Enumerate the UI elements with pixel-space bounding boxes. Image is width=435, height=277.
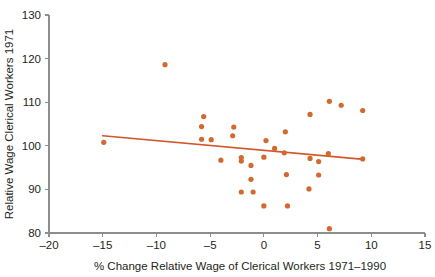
scatter-chart-figure: –20–15–10–5051015 8090100110120130 % Cha… xyxy=(0,0,435,277)
scatter-point xyxy=(230,133,235,138)
x-tick-label: 15 xyxy=(419,239,432,251)
scatter-point xyxy=(316,159,321,164)
y-tick-label: 130 xyxy=(22,9,41,21)
scatter-point xyxy=(248,177,253,182)
scatter-point xyxy=(282,150,287,155)
scatter-point xyxy=(101,140,106,145)
scatter-point xyxy=(239,158,244,163)
x-axis-ticks: –20–15–10–5051015 xyxy=(39,233,431,251)
scatter-point xyxy=(307,112,312,117)
scatter-point xyxy=(284,172,289,177)
x-tick-label: –10 xyxy=(147,239,166,251)
scatter-point xyxy=(283,129,288,134)
scatter-point xyxy=(261,155,266,160)
scatter-point xyxy=(327,99,332,104)
y-tick-label: 90 xyxy=(28,183,41,195)
x-tick-label: 0 xyxy=(261,239,267,251)
chart-svg: –20–15–10–5051015 8090100110120130 % Cha… xyxy=(0,0,435,277)
scatter-point xyxy=(239,189,244,194)
trend-line xyxy=(103,136,364,160)
scatter-point xyxy=(209,137,214,142)
x-tick-label: –15 xyxy=(93,239,112,251)
scatter-point xyxy=(306,186,311,191)
chart-axes xyxy=(49,15,425,233)
y-tick-label: 120 xyxy=(22,53,41,65)
regression-line xyxy=(103,136,364,160)
y-axis-label: Relative Wage Clerical Workers 1971 xyxy=(3,29,15,219)
y-tick-label: 110 xyxy=(23,96,41,108)
scatter-point xyxy=(327,226,332,231)
x-tick-label: –5 xyxy=(204,239,217,251)
scatter-point xyxy=(261,203,266,208)
scatter-point xyxy=(199,124,204,129)
scatter-point xyxy=(360,156,365,161)
scatter-point xyxy=(199,137,204,142)
scatter-point xyxy=(272,146,277,151)
scatter-point xyxy=(339,103,344,108)
scatter-point xyxy=(307,156,312,161)
x-tick-label: –20 xyxy=(39,239,58,251)
scatter-point xyxy=(248,163,253,168)
scatter-point xyxy=(316,172,321,177)
scatter-point xyxy=(218,158,223,163)
y-tick-label: 80 xyxy=(28,227,41,239)
x-axis-label: % Change Relative Wage of Clerical Worke… xyxy=(94,260,386,272)
scatter-point xyxy=(231,124,236,129)
scatter-point xyxy=(162,62,167,67)
x-tick-label: 10 xyxy=(365,239,378,251)
scatter-point xyxy=(251,189,256,194)
x-tick-label: 5 xyxy=(314,239,320,251)
scatter-point xyxy=(360,108,365,113)
y-axis-ticks: 8090100110120130 xyxy=(22,9,49,239)
scatter-point xyxy=(201,114,206,119)
data-points xyxy=(101,62,365,231)
y-tick-label: 100 xyxy=(22,140,41,152)
scatter-point xyxy=(326,151,331,156)
scatter-point xyxy=(285,203,290,208)
scatter-point xyxy=(263,138,268,143)
